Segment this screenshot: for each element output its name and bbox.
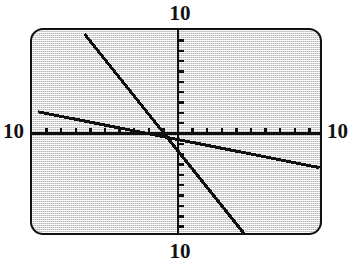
window-label-top: 10 xyxy=(0,3,360,24)
window-label-right: 10 xyxy=(327,121,357,142)
window-label-left: 10 xyxy=(3,121,31,142)
axes-group xyxy=(32,30,322,235)
calculator-screen[interactable] xyxy=(30,28,322,235)
graph-plot xyxy=(32,30,322,235)
window-label-bottom: 10 xyxy=(0,241,360,262)
graphing-calculator-screenshot: 10 10 10 10 xyxy=(0,0,360,266)
